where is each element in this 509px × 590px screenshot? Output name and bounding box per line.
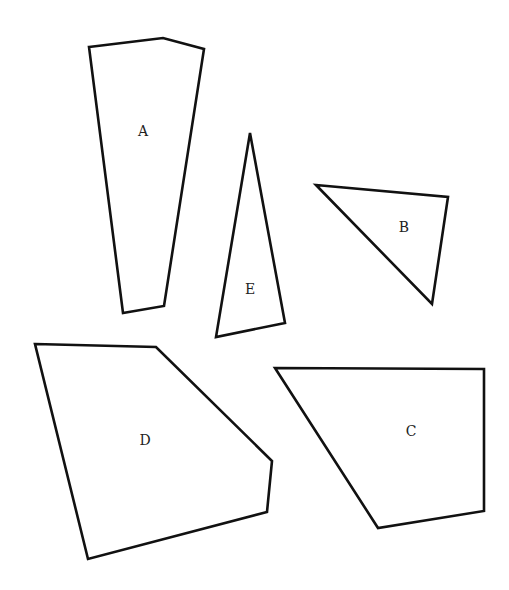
shape-c-label: C xyxy=(406,423,417,439)
shape-c: C xyxy=(275,368,484,528)
shape-d-label: D xyxy=(139,432,150,448)
shape-b-outline xyxy=(316,185,448,304)
shape-b: B xyxy=(316,185,448,304)
shape-e: E xyxy=(216,133,285,337)
shape-a: A xyxy=(89,38,204,313)
shape-e-outline xyxy=(216,133,285,337)
shape-a-label: A xyxy=(137,123,149,139)
shapes-diagram: A B C D E xyxy=(0,0,509,590)
shape-b-label: B xyxy=(399,219,409,235)
shape-e-label: E xyxy=(245,281,255,297)
shape-c-outline xyxy=(275,368,484,528)
shape-d: D xyxy=(35,344,272,559)
shape-a-outline xyxy=(89,38,204,313)
shape-d-outline xyxy=(35,344,272,559)
